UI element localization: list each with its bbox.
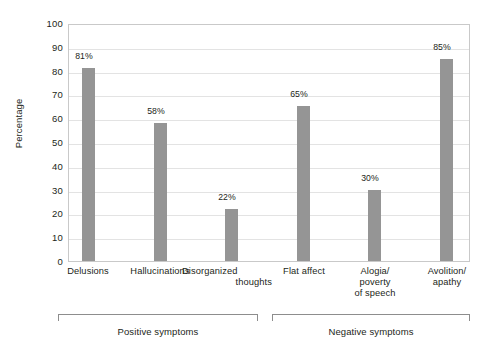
category-line-1: Alogia/ [360, 266, 389, 276]
group-label-negative-symptoms: Negative symptoms [272, 326, 470, 337]
group-label-positive-symptoms: Positive symptoms [58, 326, 258, 337]
y-tick-100: 100 [3, 19, 63, 29]
category-line-1: Avolition/ [428, 266, 467, 276]
gridline-40 [69, 168, 469, 169]
gridline-30 [69, 192, 469, 193]
bar-value-alogia: 30% [348, 174, 392, 183]
y-tick-30: 30 [3, 186, 63, 196]
group-bracket-positive [58, 314, 258, 321]
gridline-10 [69, 239, 469, 240]
group-bracket-negative [272, 314, 470, 321]
bar-hallucinations[interactable] [154, 123, 167, 261]
category-line-1: Delusions [67, 266, 109, 276]
bar-disorganized-thoughts[interactable] [225, 209, 238, 261]
category-line-1: Hallucinations [130, 266, 189, 276]
bar-value-hallucinations: 58% [134, 107, 178, 116]
bar-value-avolition: 85% [420, 43, 464, 52]
y-tick-80: 80 [3, 67, 63, 77]
bar-value-delusions: 81% [62, 52, 106, 61]
gridline-80 [69, 73, 469, 74]
y-tick-20: 20 [3, 209, 63, 219]
category-line-3: of speech [327, 288, 423, 299]
bar-flat-affect[interactable] [297, 106, 310, 261]
y-axis-tick-labels: 100 90 80 70 60 50 40 30 20 10 0 [0, 24, 63, 262]
bar-alogia[interactable] [368, 190, 381, 261]
category-line-1: Flat affect [283, 266, 325, 276]
y-tick-70: 70 [3, 90, 63, 100]
y-tick-40: 40 [3, 162, 63, 172]
y-tick-10: 10 [3, 233, 63, 243]
plot-area [68, 24, 470, 262]
y-tick-50: 50 [3, 138, 63, 148]
gridline-60 [69, 120, 469, 121]
category-label-avolition: Avolition/ apathy [399, 266, 495, 288]
bar-delusions[interactable] [82, 68, 95, 261]
gridline-50 [69, 144, 469, 145]
category-line-2: apathy [399, 277, 495, 288]
category-line-2: thoughts [182, 277, 272, 288]
bar-chart: Percentage 100 90 80 70 60 50 40 30 20 1… [0, 0, 499, 350]
bar-value-disorganized-thoughts: 22% [205, 193, 249, 202]
gridline-90 [69, 49, 469, 50]
gridline-70 [69, 96, 469, 97]
y-tick-60: 60 [3, 114, 63, 124]
y-tick-90: 90 [3, 43, 63, 53]
category-line-1: Disorganized [182, 266, 237, 276]
bar-avolition[interactable] [440, 59, 453, 261]
gridline-20 [69, 215, 469, 216]
bar-value-flat-affect: 65% [277, 90, 321, 99]
